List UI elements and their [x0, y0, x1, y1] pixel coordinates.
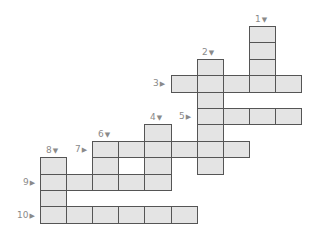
crossword-cell[interactable] [249, 75, 276, 93]
clue-number: 10 [17, 210, 28, 220]
clue-label-3: 3▶ [153, 78, 165, 89]
crossword-cell[interactable] [171, 141, 198, 158]
arrow-right-icon: ▶ [82, 146, 87, 154]
clue-number: 7 [75, 144, 81, 154]
crossword-cell[interactable] [223, 141, 250, 158]
crossword-cell[interactable] [118, 141, 145, 158]
crossword-cell[interactable] [249, 26, 276, 43]
crossword-cell[interactable] [144, 174, 172, 191]
clue-number: 8 [46, 145, 52, 155]
crossword-cell[interactable] [197, 157, 224, 175]
crossword-cell[interactable] [92, 141, 119, 158]
crossword-cell[interactable] [223, 75, 250, 93]
crossword-cell[interactable] [92, 157, 119, 175]
crossword-cell[interactable] [40, 190, 67, 207]
arrow-right-icon: ▶ [30, 179, 35, 187]
clue-number: 2 [202, 47, 208, 57]
crossword-cell[interactable] [144, 157, 172, 175]
arrow-down-icon: ▼ [209, 49, 214, 57]
arrow-down-icon: ▼ [157, 114, 162, 122]
crossword-cell[interactable] [197, 124, 224, 142]
clue-label-10: 10▶ [17, 210, 35, 221]
arrow-down-icon: ▼ [105, 131, 110, 139]
crossword-cell[interactable] [171, 206, 198, 224]
clue-number: 3 [153, 78, 159, 88]
crossword-cell[interactable] [249, 108, 276, 125]
clue-number: 5 [179, 111, 185, 121]
arrow-right-icon: ▶ [186, 113, 191, 121]
crossword-cell[interactable] [144, 141, 172, 158]
crossword-cell[interactable] [144, 206, 172, 224]
crossword-cell[interactable] [197, 108, 224, 125]
clue-label-7: 7▶ [75, 144, 87, 155]
crossword-cell[interactable] [249, 59, 276, 76]
crossword-cell[interactable] [66, 174, 93, 191]
crossword-cell[interactable] [92, 174, 119, 191]
clue-number: 6 [98, 129, 104, 139]
arrow-right-icon: ▶ [29, 212, 34, 220]
crossword-cell[interactable] [66, 206, 93, 224]
arrow-down-icon: ▼ [262, 16, 267, 24]
clue-label-8: 8▼ [46, 145, 58, 156]
crossword-cell[interactable] [223, 108, 250, 125]
crossword-cell[interactable] [144, 124, 172, 142]
crossword-cell[interactable] [197, 92, 224, 109]
arrow-right-icon: ▶ [160, 80, 165, 88]
crossword-cell[interactable] [40, 206, 67, 224]
clue-label-2: 2▼ [202, 47, 214, 58]
crossword-cell[interactable] [275, 75, 302, 93]
crossword-cell[interactable] [40, 157, 67, 175]
crossword-cell[interactable] [171, 75, 198, 93]
crossword-board: 1▼2▼3▶4▼5▶6▼7▶8▼9▶10▶ [0, 0, 319, 237]
crossword-cell[interactable] [249, 42, 276, 60]
crossword-cell[interactable] [275, 108, 302, 125]
clue-label-1: 1▼ [255, 14, 267, 25]
arrow-down-icon: ▼ [53, 147, 58, 155]
clue-number: 1 [255, 14, 261, 24]
crossword-cell[interactable] [197, 75, 224, 93]
clue-label-5: 5▶ [179, 111, 191, 122]
crossword-cell[interactable] [92, 206, 119, 224]
crossword-cell[interactable] [197, 59, 224, 76]
crossword-cell[interactable] [118, 174, 145, 191]
crossword-cell[interactable] [40, 174, 67, 191]
clue-label-9: 9▶ [23, 177, 35, 188]
clue-label-4: 4▼ [150, 112, 162, 123]
clue-label-6: 6▼ [98, 129, 110, 140]
crossword-cell[interactable] [118, 206, 145, 224]
crossword-cell[interactable] [197, 141, 224, 158]
clue-number: 4 [150, 112, 156, 122]
clue-number: 9 [23, 177, 29, 187]
